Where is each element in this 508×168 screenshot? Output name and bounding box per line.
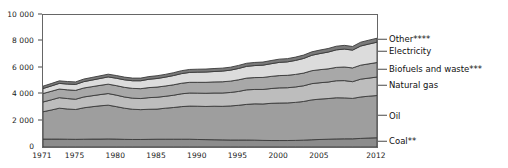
x-tick-label: 1985 [146,151,166,160]
stacked-area-chart: 02 0004 0006 0008 00010 000 197119751980… [0,0,508,168]
x-tick-label: 2000 [268,151,288,160]
x-tick-label: 1975 [65,151,85,160]
legend-leader-line [378,68,387,69]
legend-label: Biofuels and waste*** [389,65,482,74]
legend-label: Oil [389,111,400,120]
y-tick-label: 10 000 [7,10,34,19]
legend-label: Coal** [389,137,416,146]
legend-item: Natural gas [378,81,438,90]
legend-leader-line [378,39,387,40]
x-tick-label: 1990 [187,151,207,160]
x-tick-label: 2005 [309,151,329,160]
y-tick-label: 4 000 [12,89,34,98]
legend-leader-line [378,51,387,52]
legend-item: Other**** [378,35,430,44]
legend-leader-line [378,141,387,142]
legend-label: Other**** [389,35,430,44]
legend-leader-line [378,85,387,86]
legend-item: Oil [378,111,400,120]
x-tick-label: 1971 [32,151,52,160]
x-tick-label: 1980 [106,151,126,160]
legend-leader-line [378,115,387,116]
y-tick-label: 8 000 [12,36,34,45]
y-tick-label: 2 000 [12,115,34,124]
legend-label: Natural gas [389,81,438,90]
plot-area [42,14,378,148]
x-tick-label: 1995 [228,151,248,160]
legend-item: Coal** [378,137,416,146]
y-tick-label: 6 000 [12,62,34,71]
y-axis: 02 0004 0006 0008 00010 000 [0,0,42,168]
legend-item: Electricity [378,47,431,56]
legend-item: Biofuels and waste*** [378,65,482,74]
legend: Other****ElectricityBiofuels and waste**… [378,0,508,168]
area-series-group [43,15,377,147]
legend-label: Electricity [389,47,431,56]
